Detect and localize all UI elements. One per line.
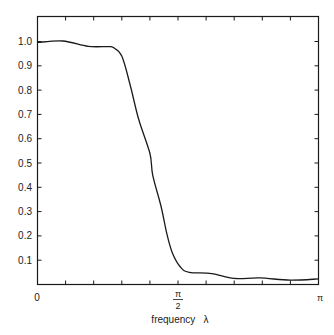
x-tick-label-half-pi-numerator: π bbox=[175, 289, 181, 299]
y-tick-label: 0.7 bbox=[18, 109, 32, 120]
y-tick-label: 0.5 bbox=[18, 158, 32, 169]
x-tick-label-half-pi-denominator: 2 bbox=[175, 301, 180, 311]
y-tick-label: 0.9 bbox=[18, 60, 32, 71]
y-tick-label: 1.0 bbox=[18, 36, 32, 47]
x-tick-label-pi: π bbox=[317, 293, 323, 303]
y-tick-label: 0.6 bbox=[18, 133, 32, 144]
y-tick-label: 0.8 bbox=[18, 85, 32, 96]
x-ticks bbox=[66, 17, 291, 285]
y-tick-labels: 0.10.20.30.40.50.60.70.80.91.0 bbox=[18, 36, 32, 266]
y-ticks bbox=[38, 42, 319, 261]
plot-frame bbox=[38, 17, 319, 285]
y-tick-label: 0.1 bbox=[18, 255, 32, 266]
y-tick-label: 0.4 bbox=[18, 182, 32, 193]
gain-curve bbox=[38, 41, 319, 280]
y-tick-label: 0.3 bbox=[18, 206, 32, 217]
chart-canvas: 0.10.20.30.40.50.60.70.80.91.0 0 π 2 π f… bbox=[0, 0, 334, 335]
y-tick-label: 0.2 bbox=[18, 230, 32, 241]
x-tick-label-zero: 0 bbox=[34, 292, 40, 303]
x-axis-title: frequency λ bbox=[151, 314, 208, 325]
